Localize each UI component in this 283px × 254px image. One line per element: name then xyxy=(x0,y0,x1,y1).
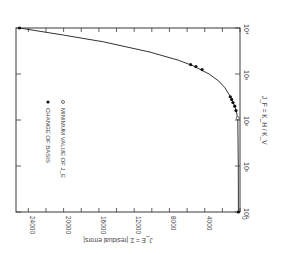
log-tick-label: 10¹ xyxy=(243,162,250,173)
change-of-basis-point xyxy=(229,95,232,98)
change-of-basis-point xyxy=(234,109,237,112)
value-tick-label: 4000 xyxy=(206,216,213,231)
legend-label-change-of-basis: CHANGE OF BASIS xyxy=(45,108,51,163)
legend-open-marker xyxy=(62,101,65,104)
log-tick-label: 10² xyxy=(243,116,250,127)
change-of-basis-point xyxy=(231,101,234,104)
chart: 04000800012000160002000024000 10⁰10¹10²1… xyxy=(0,0,283,254)
value-tick-label: 8000 xyxy=(170,216,177,231)
value-tick-label: 24000 xyxy=(29,216,36,234)
change-of-basis-point xyxy=(200,68,203,71)
legend-label-minimum-value: MINIMUM VALUE OF J_E xyxy=(60,108,66,178)
change-of-basis-point xyxy=(18,26,21,29)
curve xyxy=(20,28,239,212)
log-tick-label: 10⁰ xyxy=(243,208,250,219)
value-tick-label: 20000 xyxy=(65,216,72,234)
log-tick-label: 10³ xyxy=(243,70,250,81)
change-of-basis-point xyxy=(189,63,192,66)
value-axis-title: J_E = Σ |residual errors| xyxy=(83,236,153,244)
log-tick-label: 10⁴ xyxy=(243,24,250,35)
minimum-value-point xyxy=(236,117,239,120)
change-of-basis-point xyxy=(233,105,236,108)
je-curve-line xyxy=(20,28,239,212)
value-tick-label: 16000 xyxy=(100,216,107,234)
legend: CHANGE OF BASISMINIMUM VALUE OF J_E xyxy=(45,100,66,178)
legend-filled-marker xyxy=(46,100,49,103)
log-axis-title: J_F = K_H / K_V xyxy=(260,96,268,145)
change-of-basis-point xyxy=(194,65,197,68)
value-tick-label: 12000 xyxy=(135,216,142,234)
change-of-basis-point xyxy=(237,210,240,213)
